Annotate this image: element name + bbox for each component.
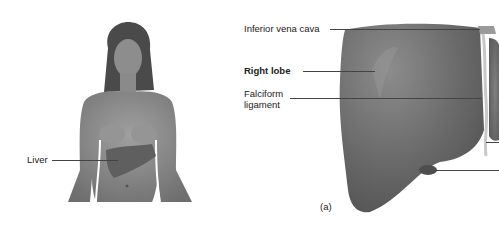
leader-line-liver xyxy=(52,160,118,161)
leader-line-falciform-ligament xyxy=(290,98,482,99)
label-right-lobe: Right lobe xyxy=(244,65,290,76)
anatomy-illustration xyxy=(0,0,499,239)
label-liver: Liver xyxy=(27,154,48,165)
label-ligament: ligament xyxy=(244,99,280,110)
panel-label: (a) xyxy=(320,201,332,212)
liver-illustration xyxy=(340,24,499,213)
leader-line-left-lobe xyxy=(486,142,499,143)
label-inferior-vena-cava: Inferior vena cava xyxy=(244,23,320,34)
leader-line-gallbladder xyxy=(436,170,499,171)
label-falciform: Falciform xyxy=(244,88,283,99)
leader-line-inferior-vena-cava xyxy=(330,29,480,30)
leader-line-right-lobe xyxy=(303,71,375,72)
torso-figure xyxy=(68,22,192,202)
